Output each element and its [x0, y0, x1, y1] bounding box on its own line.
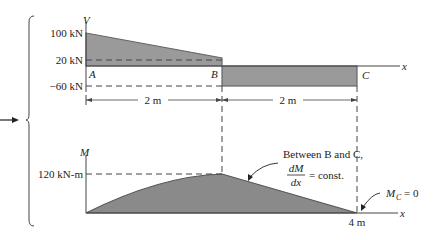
end-4m: 4 m — [349, 216, 366, 228]
frac-den: dx — [291, 176, 302, 188]
m-axis-label: M — [79, 146, 90, 158]
moment-x-label: x — [399, 207, 405, 219]
tick-100kn: 100 kN — [50, 27, 83, 39]
mc-label: M — [385, 187, 396, 199]
brace — [26, 16, 34, 226]
shear-moment-diagram: 100 kN 20 kN −60 kN V x A B C 2 m 2 m M … — [0, 0, 446, 240]
shear-diagram: 100 kN 20 kN −60 kN V x A B C 2 m 2 m — [50, 14, 407, 106]
tick-120knm: 120 kN-m — [38, 168, 83, 180]
annotation-line1: Between B and C, — [283, 148, 363, 160]
v-axis-label: V — [83, 14, 91, 26]
tick-20kn: 20 kN — [56, 54, 83, 66]
arrow-icon — [0, 117, 19, 123]
mc-sub: C — [396, 193, 402, 202]
moment-diagram: M 120 kN-m x 4 m Between B and C, dM dx … — [38, 146, 419, 228]
shear-x-label: x — [401, 60, 407, 72]
tick-neg60kn: −60 kN — [50, 80, 83, 92]
mc-eq: = 0 — [404, 187, 419, 199]
annotation-eq: = const. — [309, 169, 344, 181]
dim-ab: 2 m — [145, 94, 162, 106]
point-b: B — [211, 68, 218, 80]
point-c: C — [362, 69, 370, 81]
point-a: A — [88, 68, 96, 80]
frac-num: dM — [289, 162, 305, 174]
dim-bc: 2 m — [280, 94, 297, 106]
